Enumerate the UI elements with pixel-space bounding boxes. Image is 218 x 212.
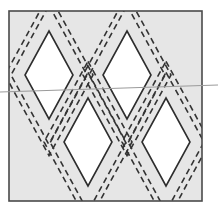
quilt-diagram <box>0 0 218 212</box>
